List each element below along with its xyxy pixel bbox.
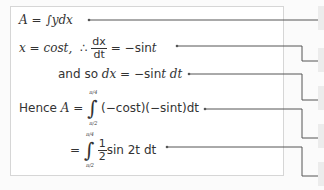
- leader-line-4: [206, 109, 318, 138]
- leader-line-5: [168, 147, 318, 176]
- leader-dot-2: [176, 45, 179, 48]
- leader-dot-1: [88, 19, 91, 22]
- leader-lines: [0, 0, 324, 190]
- leader-dot-4: [204, 108, 207, 111]
- leader-line-3: [190, 74, 318, 100]
- leader-dot-5: [166, 146, 169, 149]
- leader-dot-3: [188, 73, 191, 76]
- leader-line-2: [178, 46, 318, 61]
